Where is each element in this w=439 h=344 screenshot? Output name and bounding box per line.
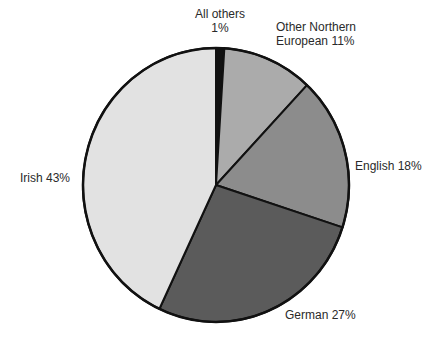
label-all-others-value: 1% [190,21,250,35]
label-all-others: All others 1% [190,7,250,35]
label-all-others-name: All others [190,7,250,21]
pie-slices [83,48,349,322]
label-german: German 27% [285,308,356,322]
label-other-ne-line1: Other Northern [276,20,356,34]
label-other-northern-european: Other Northern European 11% [276,20,356,48]
label-other-ne-line2: European 11% [276,34,356,48]
label-english: English 18% [355,159,422,173]
label-irish: Irish 43% [20,171,70,185]
